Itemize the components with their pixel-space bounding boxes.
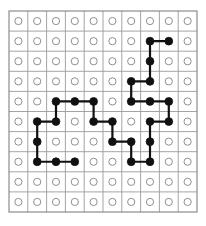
empty-site [109,178,116,185]
empty-site [128,198,135,205]
empty-site [109,38,116,45]
empty-site [184,118,191,125]
occupied-site [165,37,173,45]
empty-site [109,98,116,105]
empty-site [34,198,41,205]
occupied-site [165,118,173,126]
empty-site [52,78,59,85]
empty-site [52,58,59,65]
occupied-site [109,118,117,126]
empty-site [165,58,172,65]
occupied-site [146,98,154,106]
occupied-site [146,77,154,85]
empty-site [71,198,78,205]
empty-site [34,78,41,85]
empty-site [71,138,78,145]
empty-site [165,78,172,85]
empty-site [52,17,59,24]
empty-site [15,158,22,165]
empty-site [34,98,41,105]
occupied-site [71,98,79,106]
empty-site [15,98,22,105]
empty-site [128,17,135,24]
empty-site [109,17,116,24]
empty-site [109,198,116,205]
empty-site [128,118,135,125]
occupied-site [165,98,173,106]
occupied-site [127,77,135,85]
empty-site [15,38,22,45]
empty-site [109,58,116,65]
empty-site [34,178,41,185]
empty-site [128,58,135,65]
empty-site [146,178,153,185]
occupied-site [33,158,41,166]
empty-site [15,138,22,145]
empty-site [90,158,97,165]
empty-site [90,138,97,145]
empty-site [15,118,22,125]
empty-site [184,198,191,205]
empty-site [90,38,97,45]
occupied-site [71,158,79,166]
empty-site [184,17,191,24]
occupied-site [109,138,117,146]
empty-site [52,198,59,205]
occupied-site [127,138,135,146]
empty-site [165,138,172,145]
empty-site [15,17,22,24]
empty-site [128,178,135,185]
empty-site [71,118,78,125]
empty-site [165,198,172,205]
empty-site [165,158,172,165]
empty-site [15,78,22,85]
lattice-canvas [0,0,206,226]
empty-site [146,17,153,24]
empty-site [184,138,191,145]
empty-site [184,158,191,165]
empty-site [90,178,97,185]
empty-site [71,78,78,85]
occupied-site [52,118,60,126]
empty-site [34,38,41,45]
empty-site [109,78,116,85]
empty-site [184,178,191,185]
occupied-site [146,57,154,65]
occupied-site [146,138,154,146]
occupied-site [90,98,98,106]
empty-site [52,138,59,145]
occupied-site [146,37,154,45]
occupied-site [33,138,41,146]
occupied-site [33,118,41,126]
empty-site [184,98,191,105]
empty-site [52,38,59,45]
empty-site [90,198,97,205]
empty-site [71,17,78,24]
empty-site [71,58,78,65]
occupied-site [52,98,60,106]
empty-site [165,17,172,24]
occupied-site [146,118,154,126]
empty-site [165,178,172,185]
empty-site [184,78,191,85]
empty-site [52,178,59,185]
occupied-site [146,158,154,166]
occupied-site [52,158,60,166]
empty-site [15,58,22,65]
empty-site [146,198,153,205]
empty-site [109,158,116,165]
empty-site [71,38,78,45]
empty-site [15,198,22,205]
empty-site [90,17,97,24]
empty-site [34,58,41,65]
empty-site [90,78,97,85]
occupied-site [127,158,135,166]
occupied-site [127,98,135,106]
occupied-site [90,118,98,126]
empty-site [184,58,191,65]
empty-site [128,38,135,45]
empty-site [71,178,78,185]
empty-site [184,38,191,45]
empty-site [90,58,97,65]
empty-site [34,17,41,24]
